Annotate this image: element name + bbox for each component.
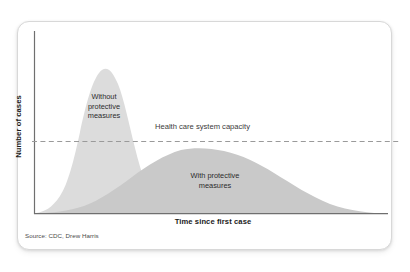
chart-card (17, 21, 392, 250)
